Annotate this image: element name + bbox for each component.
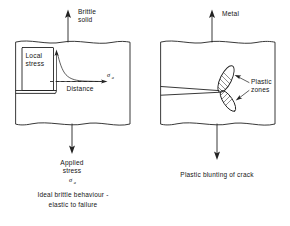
brittle-inset-graph: Local stress σ — [22, 48, 115, 92]
plastic-zones-leader-upper — [235, 75, 250, 83]
metal-blunted-crack — [161, 87, 219, 96]
brittle-caption-line2: elastic to failure — [49, 201, 98, 208]
brittle-top-label-line2: solid — [78, 16, 93, 23]
brittle-bottom-label-line2: stress — [63, 167, 82, 174]
down-arrow-icon-brittle — [69, 124, 75, 154]
metal-caption-line1: Plastic blunting of crack — [180, 171, 254, 179]
up-arrow-icon-brittle — [65, 10, 71, 43]
metal-top-label-line1: Metal — [222, 10, 239, 17]
inset-y-axis-label-line1: Local — [26, 52, 43, 59]
brittle-stress-subscript: a — [74, 180, 77, 185]
plastic-zones-label-line1: Plastic — [251, 78, 272, 85]
brittle-stress-sigma: σ — [69, 176, 73, 183]
fracture-mechanics-figure: Brittle solid Local stress — [0, 0, 290, 226]
plastic-zones-label-line2: zones — [251, 86, 270, 93]
inset-asymptote-label: σ a — [107, 71, 115, 80]
up-arrow-icon-metal — [209, 10, 215, 43]
inset-y-axis-label-line2: stress — [26, 60, 45, 67]
brittle-bottom-label-line1: Applied — [60, 159, 83, 167]
plastic-zone-upper-lobe — [204, 53, 246, 122]
brittle-applied-stress-symbol: σ a — [69, 176, 77, 185]
inset-stress-decay-curve — [57, 53, 102, 81]
inset-x-axis-label: Distance — [66, 85, 93, 92]
brittle-top-label-line1: Brittle — [78, 8, 96, 15]
inset-asymptote-symbol: σ — [107, 71, 111, 78]
down-arrow-icon-metal — [214, 124, 220, 160]
plastic-zone-lower-outline — [217, 88, 238, 113]
inset-asymptote-subscript: a — [112, 75, 115, 80]
brittle-caption-line1: Ideal brittle behaviour - — [37, 191, 108, 198]
plastic-zone-lower-lobe — [208, 61, 248, 123]
panel-metal: Metal — [161, 10, 275, 180]
figure-canvas: Brittle solid Local stress — [0, 0, 290, 226]
plastic-zone-upper-outline — [215, 64, 238, 95]
panel-brittle-solid: Brittle solid Local stress — [16, 8, 130, 208]
plastic-zones-leader-lower — [236, 91, 249, 101]
